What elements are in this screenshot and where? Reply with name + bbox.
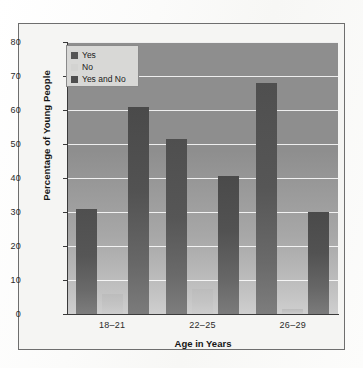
y-tick-label: 30 [11, 207, 21, 217]
gridline [67, 280, 338, 281]
y-tick-label: 70 [11, 71, 21, 81]
y-tick-label: 10 [11, 275, 21, 285]
y-axis-title: Percentage of Young People [41, 26, 52, 246]
gridline [67, 246, 338, 247]
legend-swatch-icon [71, 64, 78, 71]
legend-swatch-icon [71, 52, 78, 59]
gridline [67, 110, 338, 111]
legend-item: Yes and No [71, 73, 135, 85]
gridline [67, 178, 338, 179]
y-tick-label: 20 [11, 241, 21, 251]
bar-yes-22–25 [166, 139, 187, 314]
y-tick-mark [63, 144, 67, 145]
gridline [67, 42, 338, 43]
gridline [67, 212, 338, 213]
bar-yes-and-no-22–25 [218, 176, 239, 314]
y-tick-label: 80 [11, 37, 21, 47]
y-tick-mark [63, 314, 67, 315]
bar-yes-and-no-26–29 [308, 212, 329, 314]
bar-no-18–21 [102, 294, 123, 314]
y-tick-mark [63, 42, 67, 43]
legend-item: Yes [71, 49, 135, 61]
y-tick-label: 50 [11, 139, 21, 149]
y-tick-label: 40 [11, 173, 21, 183]
x-axis-title: Age in Years [67, 338, 339, 349]
gridline [67, 144, 338, 145]
legend-item: No [71, 61, 135, 73]
x-tick-label: 22–25 [173, 320, 233, 330]
y-tick-mark [63, 246, 67, 247]
y-tick-label: 0 [16, 309, 21, 319]
legend-item-label: No [82, 63, 93, 72]
figure: Percentage of Young People 0102030405060… [0, 0, 363, 368]
legend-item-label: Yes and No [82, 75, 126, 84]
x-tick-label: 26–29 [263, 320, 323, 330]
bar-no-22–25 [192, 289, 213, 315]
y-tick-mark [63, 280, 67, 281]
legend-item-label: Yes [82, 51, 96, 60]
bar-yes-18–21 [76, 209, 97, 314]
x-axis-line [67, 314, 339, 315]
x-tick-label: 18–21 [82, 320, 142, 330]
y-tick-label: 60 [11, 105, 21, 115]
bar-yes-and-no-18–21 [128, 107, 149, 314]
legend-swatch-icon [71, 76, 78, 83]
y-tick-mark [63, 110, 67, 111]
y-tick-mark [63, 212, 67, 213]
bar-yes-26–29 [256, 83, 277, 314]
y-tick-mark [63, 178, 67, 179]
legend: YesNoYes and No [66, 45, 139, 87]
